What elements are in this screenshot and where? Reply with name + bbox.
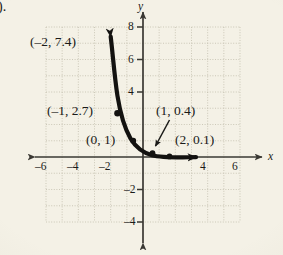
point-neg1 bbox=[114, 110, 120, 116]
leader-line-point-one bbox=[156, 120, 170, 146]
exercise-item-marker: ). bbox=[0, 0, 6, 14]
y-tick-label-neg4: –4 bbox=[124, 216, 136, 228]
point-one bbox=[150, 150, 156, 156]
point-label-neg2: (–2, 7.4) bbox=[30, 35, 76, 49]
y-tick-label-8: 8 bbox=[128, 21, 134, 33]
point-label-zero: (0, 1) bbox=[86, 133, 115, 147]
point-label-neg1: (–1, 2.7) bbox=[47, 104, 93, 118]
point-zero bbox=[130, 138, 136, 144]
x-tick-label-neg6: –6 bbox=[35, 161, 47, 173]
exponential-decay-graph-figure: ). (–2, 7.4) (–1, 2.7) (0, 1) (1, 0.4) (… bbox=[0, 0, 283, 255]
y-axis-label: y bbox=[138, 1, 143, 13]
y-tick-label-6: 6 bbox=[128, 54, 134, 66]
x-tick-label-neg4: –4 bbox=[67, 161, 79, 173]
y-tick-label-neg2: –2 bbox=[124, 184, 136, 196]
y-tick-label-4: 4 bbox=[128, 86, 134, 98]
point-label-two: (2, 0.1) bbox=[175, 133, 214, 147]
x-tick-label-neg2: –2 bbox=[99, 161, 111, 173]
point-label-one: (1, 0.4) bbox=[156, 104, 195, 118]
point-two bbox=[167, 154, 173, 160]
x-tick-label-6: 6 bbox=[232, 161, 238, 173]
x-tick-label-4: 4 bbox=[200, 161, 206, 173]
x-axis-label: x bbox=[268, 151, 273, 163]
